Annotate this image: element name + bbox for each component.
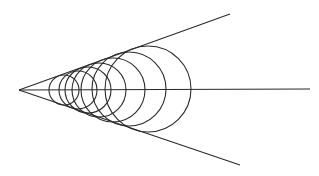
axis-line [19,89,310,90]
inscribed-circles-diagram [0,0,319,176]
angle-lines [19,14,310,165]
